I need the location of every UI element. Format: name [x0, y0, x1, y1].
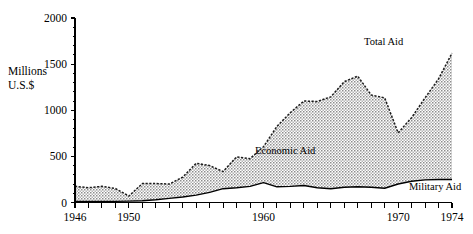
y-axis-title-line1: Millions [8, 65, 48, 77]
x-tick-label: 1950 [117, 211, 140, 223]
axis-titles: Millions U.S.$ [8, 65, 48, 91]
total-aid-label: Total Aid [364, 36, 404, 47]
y-axis: 0500100015002000 [44, 12, 75, 209]
y-axis-tick-labels: 0500100015002000 [44, 12, 67, 209]
economic-aid-label: Economic Aid [255, 145, 316, 156]
y-tick-label: 2000 [44, 12, 67, 24]
y-tick-label: 500 [50, 150, 68, 162]
x-axis-ticks [75, 203, 452, 208]
y-tick-label: 0 [61, 197, 67, 209]
x-tick-label: 1970 [387, 211, 410, 223]
y-axis-title-line2: U.S.$ [8, 79, 34, 91]
y-axis-ticks [71, 18, 76, 203]
x-tick-label: 1960 [252, 211, 275, 223]
chart-container: 0500100015002000 19461950196019701974 Mi… [0, 0, 473, 234]
military-aid-label: Military Aid [409, 181, 462, 192]
x-tick-label: 1974 [441, 211, 464, 223]
x-tick-label: 1946 [64, 211, 87, 223]
area-chart: 0500100015002000 19461950196019701974 Mi… [0, 0, 473, 234]
y-tick-label: 1000 [44, 104, 67, 116]
plot-area [75, 53, 452, 202]
x-axis: 19461950196019701974 [64, 203, 464, 223]
x-axis-tick-labels: 19461950196019701974 [64, 211, 464, 223]
y-tick-label: 1500 [44, 58, 67, 70]
